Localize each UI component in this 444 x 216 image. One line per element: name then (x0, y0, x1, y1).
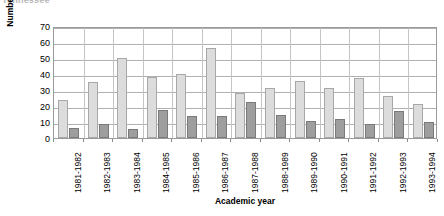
x-tick-label: 1983-1984 (132, 141, 143, 193)
bar-graduates (217, 116, 227, 138)
bar-students (147, 77, 157, 138)
x-tick-mark (437, 139, 438, 142)
bar-graduates (365, 124, 375, 138)
x-tick-mark (348, 139, 349, 142)
bar-students (295, 81, 305, 138)
x-tick-label: 1981-1982 (73, 141, 84, 193)
x-tick-mark (260, 139, 261, 142)
bar-graduates (128, 129, 138, 138)
bar-students (265, 88, 275, 138)
y-tick-label: 20 (26, 103, 50, 112)
y-tick-label: 50 (26, 55, 50, 64)
bar-group (290, 28, 320, 138)
bar-graduates (187, 116, 197, 138)
x-tick-label: 1984-1985 (161, 141, 172, 193)
bar-series-container (54, 28, 436, 138)
bar-students (324, 88, 334, 138)
bar-graduates (69, 128, 79, 138)
x-tick-label: 1991-1992 (368, 141, 379, 193)
bar-graduates (246, 102, 256, 138)
x-tick-mark (378, 139, 379, 142)
y-tick-label: 0 (26, 135, 50, 144)
x-tick-mark (171, 139, 172, 142)
bar-group (320, 28, 350, 138)
x-tick-label: 1989-1990 (309, 141, 320, 193)
bar-graduates (99, 124, 109, 138)
y-tick-label: 10 (26, 119, 50, 128)
x-tick-mark (289, 139, 290, 142)
chart-page: Tennessee Number of students/graduates 7… (0, 0, 444, 216)
x-tick-label: 1987-1988 (250, 141, 261, 193)
bar-graduates (394, 111, 404, 138)
plot-area (53, 27, 437, 139)
bar-group (349, 28, 379, 138)
bar-students (413, 104, 423, 138)
bar-group (54, 28, 84, 138)
bar-graduates (335, 119, 345, 138)
y-tick-label: 70 (26, 23, 50, 32)
bar-group (113, 28, 143, 138)
bar-group (408, 28, 437, 138)
bar-students (176, 74, 186, 138)
bar-group (261, 28, 291, 138)
bar-students (354, 78, 364, 138)
x-tick-label: 1982-1983 (102, 141, 113, 193)
bar-students (383, 96, 393, 138)
bar-group (231, 28, 261, 138)
x-tick-label: 1990-1991 (339, 141, 350, 193)
x-tick-mark (112, 139, 113, 142)
x-tick-mark (201, 139, 202, 142)
bar-group (143, 28, 173, 138)
y-tick-label: 60 (26, 39, 50, 48)
x-tick-mark (319, 139, 320, 142)
x-axis-tick-labels: 1981-19821982-19831983-19841984-19851985… (53, 141, 437, 193)
bar-students (235, 93, 245, 138)
x-tick-mark (407, 139, 408, 142)
bar-graduates (276, 115, 286, 138)
bar-students (88, 82, 98, 138)
bar-students (117, 58, 127, 138)
x-tick-mark (230, 139, 231, 142)
x-tick-mark (83, 139, 84, 142)
bar-students (206, 48, 216, 138)
y-tick-label: 40 (26, 71, 50, 80)
y-tick-label: 30 (26, 87, 50, 96)
bar-graduates (306, 121, 316, 138)
x-tick-mark (142, 139, 143, 142)
x-tick-label: 1993-1994 (427, 141, 438, 193)
x-tick-label: 1986-1987 (220, 141, 231, 193)
x-axis-title: Academic year (53, 196, 437, 206)
x-tick-label: 1988-1989 (280, 141, 291, 193)
x-tick-label: 1985-1986 (191, 141, 202, 193)
x-tick-mark (53, 139, 54, 142)
y-axis-tick-labels: 706050403020100 (26, 27, 50, 139)
bar-group (379, 28, 409, 138)
bar-graduates (424, 122, 434, 138)
x-tick-label: 1992-1993 (398, 141, 409, 193)
y-axis-title: Number of students/graduates (3, 0, 17, 30)
bar-group (84, 28, 114, 138)
bar-graduates (158, 110, 168, 138)
bar-group (202, 28, 232, 138)
bar-group (172, 28, 202, 138)
bar-students (58, 100, 68, 138)
